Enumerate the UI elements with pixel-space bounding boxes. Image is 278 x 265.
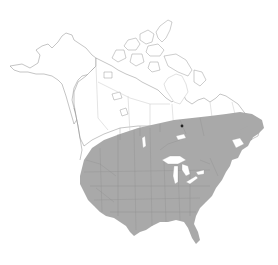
isolated-record-dot xyxy=(181,125,184,128)
map-canvas xyxy=(0,0,278,265)
range-map: North America species range map xyxy=(0,0,278,265)
